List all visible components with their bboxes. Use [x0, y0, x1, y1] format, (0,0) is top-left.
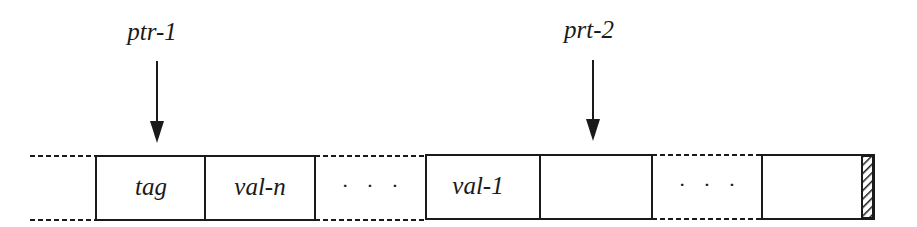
cell-label-val-n: val-n	[234, 173, 285, 200]
dashed-rail-left	[30, 156, 96, 220]
memory-layout-diagram: tag val-n · · · val-1 · · · ptr-1 prt-2	[0, 0, 917, 227]
cell-last	[762, 155, 874, 219]
arrow-down-icon	[586, 60, 600, 141]
hatched-end-marker	[862, 156, 873, 218]
ellipsis-2: · · ·	[679, 172, 742, 197]
pointer-label-2: prt-2	[562, 16, 614, 43]
cell-empty	[540, 155, 652, 219]
ellipsis-1: · · ·	[342, 173, 405, 198]
cell-label-tag: tag	[135, 173, 167, 200]
arrow-down-icon	[150, 61, 164, 143]
pointer-label-1: ptr-1	[125, 18, 177, 45]
cell-label-val-1: val-1	[452, 172, 503, 199]
